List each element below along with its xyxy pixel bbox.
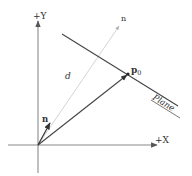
y-axis-label: +Y (33, 11, 48, 21)
point-p0-label: p0 (131, 65, 141, 77)
plane-diagram: +Y +X n n d p0 Plane (0, 0, 192, 176)
normal-direction-label: n (121, 14, 126, 23)
normal-vector-label: n (42, 114, 48, 124)
point-p0-subscript: 0 (137, 69, 141, 77)
x-axis-label: +X (155, 135, 170, 145)
point-p0 (126, 72, 129, 75)
distance-label: d (65, 71, 71, 81)
plane-label: Plane (150, 92, 177, 113)
normal-vector (38, 123, 50, 145)
position-vector-p0 (38, 75, 127, 145)
